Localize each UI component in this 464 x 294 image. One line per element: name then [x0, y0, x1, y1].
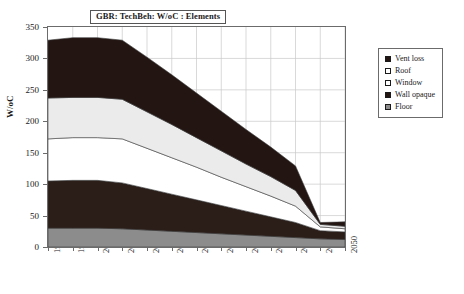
- legend-item-label: Wall opaque: [395, 91, 435, 99]
- legend-item-label: Vent loss: [395, 55, 424, 63]
- y-axis-tick-label: 150: [0, 148, 39, 158]
- x-axis-tick-label: 2050: [349, 236, 359, 253]
- stacked-area-svg: [48, 27, 345, 247]
- legend-item-label: Roof: [395, 67, 411, 75]
- chart-legend: Vent lossRoofWindowWall opaqueFloor: [378, 48, 443, 118]
- chart-title: GBR: TechBeh: W/oC : Elements: [90, 10, 226, 24]
- chart-figure: GBR: TechBeh: W/oC : Elements W/oC 05010…: [0, 0, 464, 294]
- legend-swatch-icon: [385, 80, 391, 86]
- y-axis-tick-label: 250: [0, 85, 39, 95]
- legend-item[interactable]: Roof: [385, 67, 435, 75]
- legend-swatch-icon: [385, 104, 391, 110]
- legend-swatch-icon: [385, 68, 391, 74]
- legend-item[interactable]: Wall opaque: [385, 91, 435, 99]
- legend-item-label: Window: [395, 79, 422, 87]
- legend-swatch-icon: [385, 92, 391, 98]
- y-axis-tick-label: 200: [0, 116, 39, 126]
- y-axis-tick-label: 0: [0, 242, 39, 252]
- legend-item[interactable]: Floor: [385, 103, 435, 111]
- y-axis-tick-label: 300: [0, 53, 39, 63]
- y-axis-tick-label: 100: [0, 179, 39, 189]
- legend-item[interactable]: Vent loss: [385, 55, 435, 63]
- y-axis-label: W/oC: [5, 96, 15, 119]
- y-axis-tick-label: 350: [0, 22, 39, 32]
- plot-area: [47, 26, 346, 248]
- y-axis-tick-label: 50: [0, 211, 39, 221]
- legend-swatch-icon: [385, 56, 391, 62]
- legend-item-label: Floor: [395, 103, 412, 111]
- legend-item[interactable]: Window: [385, 79, 435, 87]
